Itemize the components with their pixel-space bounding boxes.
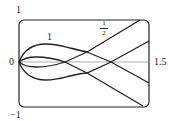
plot-frame — [19, 20, 149, 107]
y-min-label: −1 — [10, 110, 21, 120]
plot-area — [0, 0, 174, 121]
curve-half-lower — [19, 20, 140, 67]
curve-half-label: 1 2 — [100, 20, 108, 37]
curve-one-upper — [19, 44, 149, 83]
curve-half-upper — [19, 57, 143, 106]
y-max-label: 1 — [16, 5, 21, 15]
x-origin-label: 0 — [9, 57, 14, 67]
curve-one-label: 1 — [47, 32, 52, 42]
x-max-label: 1.5 — [154, 57, 167, 67]
curve-half-numerator: 1 — [102, 19, 106, 27]
curve-half-denominator: 2 — [102, 29, 106, 37]
curve-one-lower — [19, 41, 149, 80]
